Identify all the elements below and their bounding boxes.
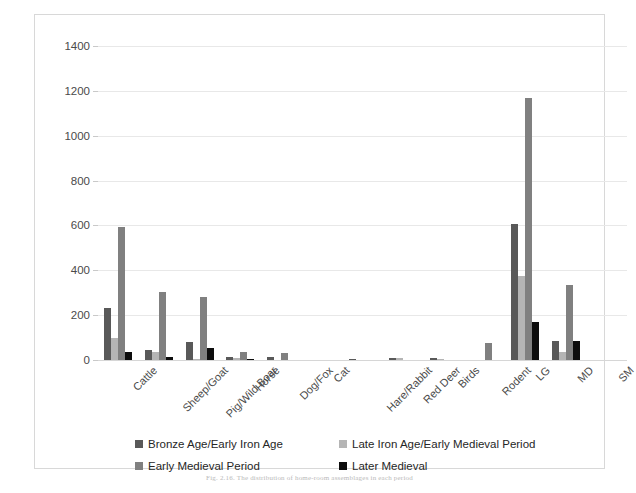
legend-swatch-icon [339, 440, 347, 448]
bar [518, 276, 525, 360]
bar [152, 352, 159, 360]
y-tick-mark-1400 [93, 46, 98, 47]
bar-group [349, 46, 377, 360]
y-tick-label-1000: 1000 [64, 130, 90, 142]
legend-swatch-icon [339, 462, 347, 470]
bar-group [430, 46, 458, 360]
bar-group [308, 46, 336, 360]
bar [559, 352, 566, 360]
legend-swatch-icon [135, 440, 143, 448]
y-tick-mark-600 [93, 225, 98, 226]
bar [573, 341, 580, 360]
legend-swatch-icon [135, 462, 143, 470]
y-tick-mark-1200 [93, 91, 98, 92]
bar-group [389, 46, 417, 360]
y-tick-mark-1000 [93, 136, 98, 137]
x-tick-label: Sheep/Goat [180, 364, 230, 414]
bar-group [267, 46, 295, 360]
bar [525, 98, 532, 360]
legend-label: Bronze Age/Early Iron Age [148, 438, 283, 450]
bar-group [186, 46, 214, 360]
bar-group [593, 46, 621, 360]
bar [145, 350, 152, 360]
bar [159, 292, 166, 360]
legend-label: Late Iron Age/Early Medieval Period [352, 438, 535, 450]
bar-group [511, 46, 539, 360]
legend-item: Late Iron Age/Early Medieval Period [339, 438, 535, 450]
x-tick-label: Cattle [131, 364, 160, 393]
figure-caption: Fig. 2.16. The distribution of home-room… [0, 474, 619, 482]
y-tick-label-600: 600 [71, 219, 90, 231]
y-tick-label-400: 400 [71, 264, 90, 276]
y-tick-label-1400: 1400 [64, 40, 90, 52]
bar [104, 308, 111, 360]
bar [240, 352, 247, 360]
legend-label: Later Medieval [352, 460, 427, 472]
bar [566, 285, 573, 360]
bar [118, 227, 125, 360]
y-tick-mark-800 [93, 181, 98, 182]
x-tick-label: LG [534, 364, 553, 383]
bar [511, 224, 518, 360]
y-tick-label-0: 0 [84, 354, 90, 366]
bar [532, 322, 539, 360]
legend-item: Bronze Age/Early Iron Age [135, 438, 283, 450]
y-tick-label-800: 800 [71, 175, 90, 187]
x-tick-label: Horse [253, 364, 282, 393]
y-tick-mark-400 [93, 270, 98, 271]
x-axis-label-group: CattleSheep/GoatPig/Wild BoarHorseDog/Fo… [98, 360, 627, 420]
bar [200, 297, 207, 360]
bar-group [471, 46, 499, 360]
x-tick-label: SM [615, 364, 635, 384]
bar-group [145, 46, 173, 360]
bar [552, 341, 559, 360]
y-axis-label-group: 0200400600800100012001400 [35, 46, 90, 360]
bar [186, 342, 193, 360]
legend-label: Early Medieval Period [148, 460, 260, 472]
bar [281, 353, 288, 360]
x-tick-label: Hare/Rabbit [384, 364, 434, 414]
bar-group [226, 46, 254, 360]
bar [207, 348, 214, 360]
y-tick-label-200: 200 [71, 309, 90, 321]
bar-group [552, 46, 580, 360]
x-tick-label: Dog/Fox [297, 364, 335, 402]
chart-frame: 0200400600800100012001400 CattleSheep/Go… [34, 14, 605, 469]
bar [111, 338, 118, 360]
bar [125, 352, 132, 360]
bar [485, 343, 492, 360]
x-tick-label: Birds [455, 364, 481, 390]
x-tick-label: Cat [331, 364, 352, 385]
legend-item: Later Medieval [339, 460, 427, 472]
bar-group [104, 46, 132, 360]
x-tick-label: MD [575, 364, 596, 385]
y-tick-mark-200 [93, 315, 98, 316]
x-tick-label: Rodent [499, 364, 533, 398]
y-tick-label-1200: 1200 [64, 85, 90, 97]
legend-item: Early Medieval Period [135, 460, 260, 472]
plot-area [98, 46, 627, 360]
